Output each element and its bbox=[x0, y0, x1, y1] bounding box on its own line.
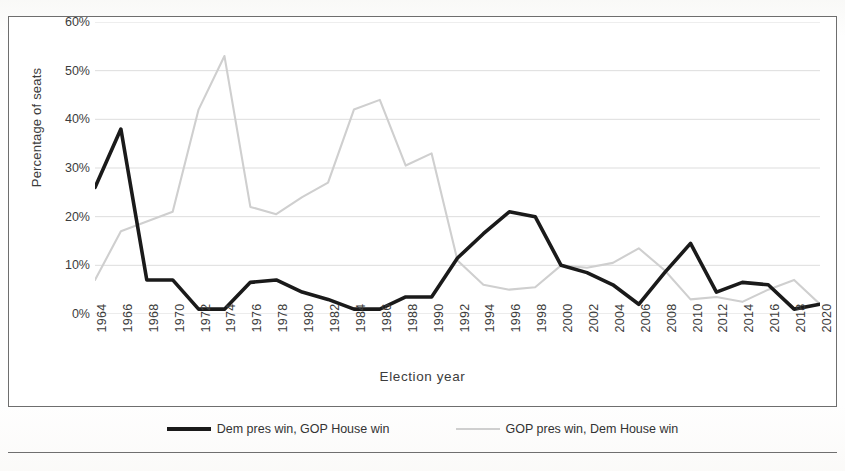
x-axis-tick-label: 1974 bbox=[224, 298, 238, 338]
legend-label: GOP pres win, Dem House win bbox=[506, 422, 679, 436]
legend-swatch-dark-line-icon bbox=[167, 427, 211, 431]
x-axis-tick-label: 2008 bbox=[665, 298, 679, 338]
plot-area bbox=[95, 22, 820, 314]
x-axis-tick-label: 1990 bbox=[432, 298, 446, 338]
x-axis-tick-label: 1966 bbox=[121, 298, 135, 338]
x-axis-tick-label: 1976 bbox=[250, 298, 264, 338]
x-axis-tick-label: 2002 bbox=[587, 298, 601, 338]
chart-page: Percentage of seats 0%10%20%30%40%50%60%… bbox=[0, 0, 845, 471]
legend-label: Dem pres win, GOP House win bbox=[217, 422, 390, 436]
legend-swatch-light-line-icon bbox=[456, 428, 500, 430]
x-axis-tick-label: 2020 bbox=[820, 298, 834, 338]
y-axis-tick-label: 20% bbox=[44, 210, 90, 224]
y-axis-tick-label: 10% bbox=[44, 258, 90, 272]
x-axis-tick-label: 2014 bbox=[742, 298, 756, 338]
x-axis-tick-label: 1994 bbox=[483, 298, 497, 338]
x-axis-title: Election year bbox=[0, 369, 845, 384]
x-axis-tick-label: 1982 bbox=[328, 298, 342, 338]
y-axis-tick-label: 50% bbox=[44, 64, 90, 78]
x-axis-tick-label: 1972 bbox=[199, 298, 213, 338]
x-axis-tick-label: 2000 bbox=[561, 298, 575, 338]
x-axis-tick-labels: 1964196619681970197219741976197819801982… bbox=[0, 314, 845, 362]
x-axis-tick-label: 2012 bbox=[716, 298, 730, 338]
x-axis-tick-label: 1980 bbox=[302, 298, 316, 338]
legend-item[interactable]: Dem pres win, GOP House win bbox=[167, 422, 390, 436]
x-axis-tick-label: 2016 bbox=[768, 298, 782, 338]
x-axis-tick-label: 1984 bbox=[354, 298, 368, 338]
x-axis-tick-label: 2010 bbox=[691, 298, 705, 338]
x-axis-tick-label: 1992 bbox=[458, 298, 472, 338]
gridlines bbox=[95, 22, 820, 314]
x-axis-tick-label: 1998 bbox=[535, 298, 549, 338]
series-line-gop-pres-dem-house bbox=[95, 56, 820, 304]
x-axis-tick-label: 2006 bbox=[639, 298, 653, 338]
y-axis-tick-labels: 0%10%20%30%40%50%60% bbox=[44, 16, 90, 316]
chart-title-strip bbox=[0, 0, 845, 16]
series-lines bbox=[95, 56, 820, 309]
x-axis-tick-label: 1986 bbox=[380, 298, 394, 338]
y-axis-tick-label: 30% bbox=[44, 161, 90, 175]
x-axis-tick-label: 1964 bbox=[95, 298, 109, 338]
y-axis-tick-label: 40% bbox=[44, 112, 90, 126]
x-axis-tick-label: 2018 bbox=[794, 298, 808, 338]
y-axis-tick-label: 60% bbox=[44, 15, 90, 29]
x-axis-tick-label: 1978 bbox=[276, 298, 290, 338]
series-line-dem-pres-gop-house bbox=[95, 129, 820, 309]
series-canvas bbox=[95, 22, 820, 314]
x-axis-tick-label: 1968 bbox=[147, 298, 161, 338]
x-axis-tick-label: 1988 bbox=[406, 298, 420, 338]
x-axis-tick-label: 1996 bbox=[509, 298, 523, 338]
y-axis-title: Percentage of seats bbox=[29, 38, 44, 218]
x-axis-tick-label: 1970 bbox=[173, 298, 187, 338]
legend-item[interactable]: GOP pres win, Dem House win bbox=[456, 422, 679, 436]
legend-separator-rule bbox=[8, 452, 837, 453]
x-axis-tick-label: 2004 bbox=[613, 298, 627, 338]
chart-legend: Dem pres win, GOP House winGOP pres win,… bbox=[0, 416, 845, 442]
